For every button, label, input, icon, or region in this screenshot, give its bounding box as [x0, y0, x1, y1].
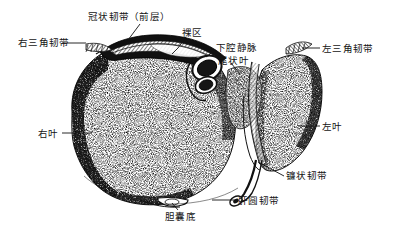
label-left-triangular-ligament: 左三角韧带 — [322, 44, 374, 54]
label-gallbladder-fundus: 胆囊底 — [165, 212, 196, 222]
label-round-ligament-of-liver: 肝圆韧带 — [238, 196, 279, 206]
label-right-triangular-ligament: 右三角韧带 — [18, 38, 70, 48]
label-caudate-lobe: 尾状叶 — [218, 56, 249, 66]
label-inferior-vena-cava: 下腔静脉 — [216, 43, 257, 53]
label-bare-area: 裸区 — [182, 28, 203, 38]
label-right-lobe: 右叶 — [38, 129, 59, 139]
label-coronary-ligament-anterior: 冠状韧带（前层） — [88, 12, 170, 22]
label-left-lobe: 左叶 — [322, 122, 343, 132]
label-falciform-ligament: 镰状韧带 — [286, 171, 327, 181]
